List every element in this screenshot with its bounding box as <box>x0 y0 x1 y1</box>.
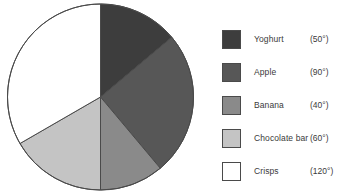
legend-label: Apple <box>254 67 276 77</box>
legend-label: Yoghurt <box>254 34 284 44</box>
legend-value: (40°) <box>310 100 354 110</box>
legend-swatch <box>222 129 241 148</box>
legend-item: Yoghurt(50°) <box>222 28 354 50</box>
pie-chart-figure: Yoghurt(50°)Apple(90°)Banana(40°)Chocola… <box>0 0 354 195</box>
legend-value: (120°) <box>310 166 354 176</box>
legend-swatch <box>222 30 241 49</box>
pie-chart-area <box>0 0 205 195</box>
legend-item: Banana(40°) <box>222 94 354 116</box>
legend-item: Apple(90°) <box>222 61 354 83</box>
legend-swatch <box>222 63 241 82</box>
pie-slice-group <box>8 4 194 190</box>
pie-chart-svg <box>0 0 205 195</box>
legend-swatch <box>222 162 241 181</box>
legend-label: Banana <box>254 100 284 110</box>
legend-swatch <box>222 96 241 115</box>
legend-item: Chocolate bar(60°) <box>222 127 354 149</box>
legend-label: Crisps <box>254 166 279 176</box>
legend-label: Chocolate bar <box>254 133 308 143</box>
chart-legend: Yoghurt(50°)Apple(90°)Banana(40°)Chocola… <box>222 0 354 195</box>
legend-value: (50°) <box>310 34 354 44</box>
legend-value: (90°) <box>310 67 354 77</box>
legend-item: Crisps(120°) <box>222 160 354 182</box>
legend-value: (60°) <box>310 133 354 143</box>
